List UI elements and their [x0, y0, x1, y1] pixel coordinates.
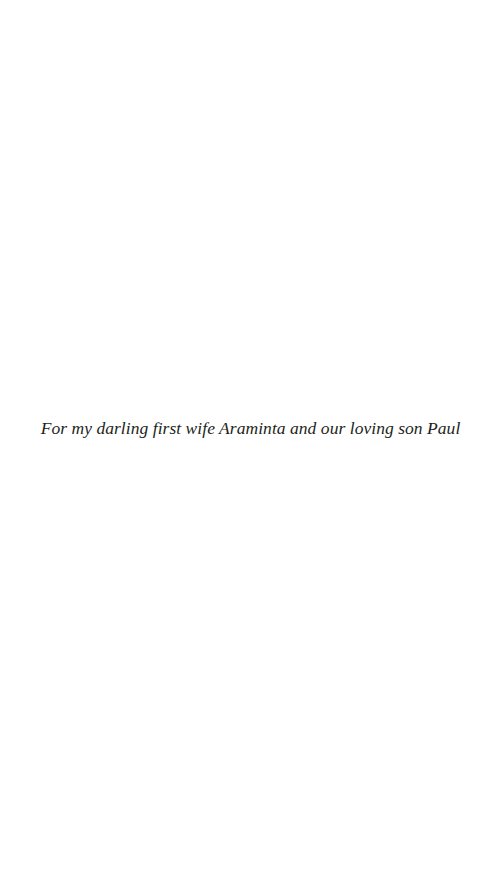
book-page: For my darling first wife Araminta and o… [0, 0, 501, 885]
dedication-text: For my darling first wife Araminta and o… [0, 416, 501, 440]
